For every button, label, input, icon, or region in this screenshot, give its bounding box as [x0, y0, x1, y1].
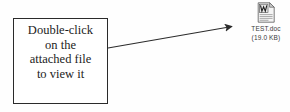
callout-line-1: Double-click [28, 23, 93, 38]
callout-line-2: on the [45, 38, 76, 53]
instruction-callout-box: Double-click on the attached file to vie… [13, 18, 108, 104]
diagram-canvas: Double-click on the attached file to vie… [0, 0, 290, 112]
attachment-file-size: (19.0 KB) [252, 34, 281, 43]
word-document-icon[interactable] [257, 2, 276, 23]
callout-line-3: attached file [30, 52, 91, 67]
attachment-file-name: TEST.doc [251, 25, 280, 34]
arrow-line [108, 27, 232, 49]
callout-line-4: to view it [37, 67, 84, 82]
attachment-item[interactable]: TEST.doc (19.0 KB) [243, 2, 289, 42]
